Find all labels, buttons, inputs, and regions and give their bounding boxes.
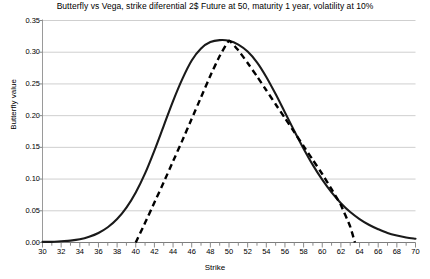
chart-container: Butterfly vs Vega, strike diferential 2$… xyxy=(0,0,430,279)
series-line-vega xyxy=(136,41,355,243)
series-line-butterfly xyxy=(43,40,416,242)
plot-area xyxy=(0,0,430,279)
